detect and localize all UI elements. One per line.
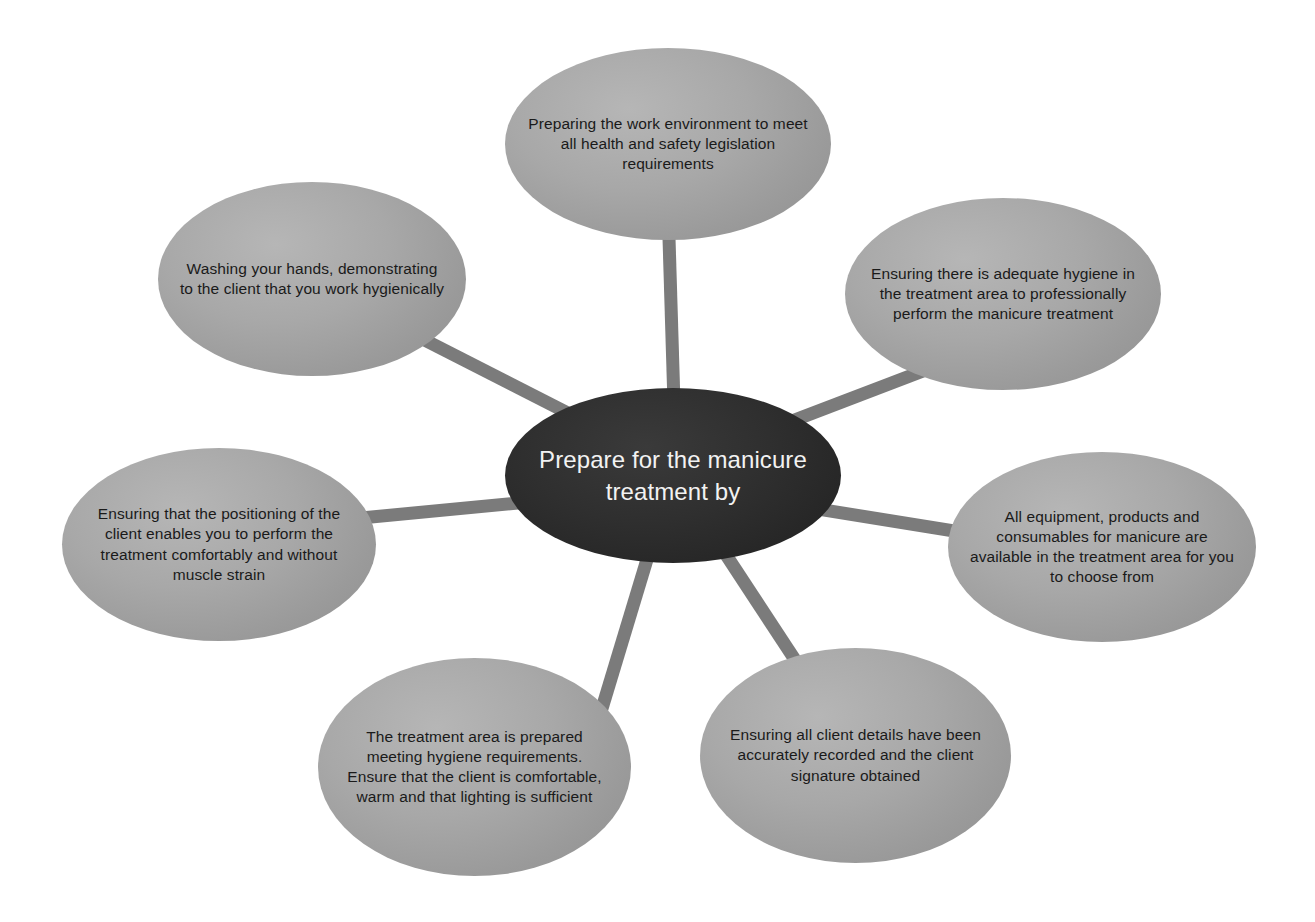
spoke-node-right-label: All equipment, products and consumables … xyxy=(970,507,1235,588)
spoke-node-left[interactable]: Ensuring that the positioning of the cli… xyxy=(62,448,376,641)
spoke-node-lower-right[interactable]: Ensuring all client details have been ac… xyxy=(700,648,1011,863)
spoke-node-top-label: Preparing the work environment to meet a… xyxy=(528,114,808,174)
spoke-node-right[interactable]: All equipment, products and consumables … xyxy=(948,452,1256,642)
diagram-canvas: Preparing the work environment to meet a… xyxy=(0,0,1315,922)
spoke-node-upper-left-label: Washing your hands, demonstrating to the… xyxy=(180,259,445,299)
spoke-node-lower-right-label: Ensuring all client details have been ac… xyxy=(722,725,989,785)
spoke-node-upper-right[interactable]: Ensuring there is adequate hygiene in th… xyxy=(845,198,1161,390)
spoke-node-upper-right-label: Ensuring there is adequate hygiene in th… xyxy=(867,264,1139,324)
spoke-node-upper-left[interactable]: Washing your hands, demonstrating to the… xyxy=(158,182,466,376)
spoke-node-top[interactable]: Preparing the work environment to meet a… xyxy=(505,48,831,240)
spoke-node-left-label: Ensuring that the positioning of the cli… xyxy=(84,504,354,585)
spoke-node-lower-left-label: The treatment area is prepared meeting h… xyxy=(340,727,609,808)
hub-node-label: Prepare for the manicure treatment by xyxy=(525,444,821,507)
spoke-node-lower-left[interactable]: The treatment area is prepared meeting h… xyxy=(318,658,631,876)
hub-node[interactable]: Prepare for the manicure treatment by xyxy=(505,388,841,563)
